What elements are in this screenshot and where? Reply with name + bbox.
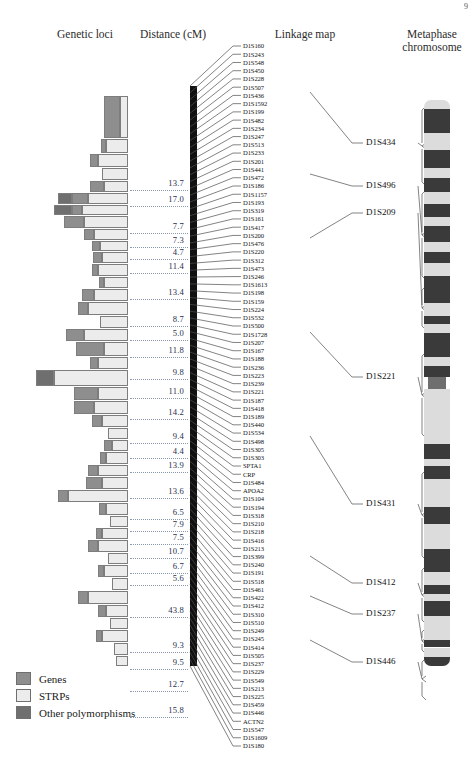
- locus-bar: [16, 643, 128, 655]
- locus-bar-segment-strp: [94, 401, 128, 414]
- distance-value: 8.7: [173, 314, 184, 324]
- header-distance: Distance (cM): [128, 28, 218, 41]
- chromosome-band: [424, 192, 450, 203]
- chromosome-band: [424, 657, 450, 666]
- locus-bar: [16, 528, 128, 539]
- locus-bar-segment-strp: [106, 139, 128, 153]
- linkage-marker: D1S482: [243, 117, 264, 124]
- locus-bar: [16, 465, 128, 476]
- header-linkage-map: Linkage map: [250, 28, 360, 41]
- linkage-marker: D1S236: [243, 364, 264, 371]
- distance-value: 5.6: [173, 573, 184, 583]
- linkage-marker: D1S193: [243, 199, 264, 206]
- locus-bar-segment-gene: [90, 357, 98, 369]
- chromosome-band: [424, 616, 450, 640]
- chromosome-band: [424, 324, 450, 333]
- distance-value: 7.3: [173, 235, 184, 245]
- distance-value: 11.0: [168, 386, 184, 396]
- chromosome-band: [424, 303, 450, 316]
- locus-bar-segment-strp: [94, 229, 128, 240]
- linkage-marker: D1S245: [243, 635, 264, 642]
- linkage-marker: D1S472: [243, 174, 264, 181]
- locus-bar: [16, 440, 128, 451]
- linkage-marker: D1S198: [243, 289, 264, 296]
- linkage-marker: D1S159: [243, 298, 264, 305]
- chromosome-band: [424, 648, 450, 657]
- locus-bar-segment-strp: [104, 181, 128, 192]
- locus-bar-segment-strp: [102, 630, 128, 642]
- linkage-marker: D1S505: [243, 652, 264, 659]
- distance-tick-line: [130, 544, 188, 545]
- locus-bar: [16, 154, 128, 167]
- linkage-marker: D1S180: [243, 742, 264, 749]
- linkage-marker: D1S473: [243, 265, 264, 272]
- locus-bar-segment-gene: [93, 252, 102, 263]
- linkage-marker: D1S319: [243, 207, 264, 214]
- linkage-marker: APOA2: [243, 487, 264, 494]
- linkage-marker: D1S191: [243, 569, 264, 576]
- distance-tick-line: [130, 558, 188, 559]
- locus-bar-segment-strp: [84, 329, 128, 341]
- locus-bar-segment-gene: [76, 342, 104, 356]
- linkage-marker: D1S233: [243, 149, 264, 156]
- linkage-marker: D1S547: [243, 726, 264, 733]
- locus-bar-segment-gene: [99, 277, 104, 288]
- chromosome-band: [424, 459, 450, 466]
- linkage-marker: D1S513: [243, 141, 264, 148]
- locus-bar: [16, 277, 128, 288]
- linkage-marker: D1S220: [243, 248, 264, 255]
- chromosome-band: [424, 178, 450, 193]
- locus-bar-segment-strp: [116, 656, 128, 666]
- distance-value: 14.2: [168, 407, 184, 417]
- locus-bar: [16, 605, 128, 617]
- bracket-label: D1S446: [366, 656, 396, 666]
- distance-tick-line: [130, 326, 188, 327]
- genetic-loci-bar-chart: [16, 86, 128, 666]
- distance-tick-line: [130, 585, 188, 586]
- locus-bar: [16, 540, 128, 552]
- linkage-marker: D1S310: [243, 611, 264, 618]
- chromosome-band: [424, 242, 450, 251]
- locus-bar-segment-gene: [100, 452, 106, 464]
- legend-item-other: Other polymorphisms: [16, 706, 216, 719]
- distance-value: 6.5: [173, 507, 184, 517]
- legend-swatch-gene: [16, 672, 31, 685]
- linkage-marker: D1S210: [243, 520, 264, 527]
- distance-value: 6.7: [173, 561, 184, 571]
- locus-bar: [16, 193, 128, 204]
- distance-tick-line: [130, 458, 188, 459]
- locus-bar-segment-strp: [98, 540, 128, 552]
- linkage-marker: D1S518: [243, 578, 264, 585]
- distance-value: 4.4: [173, 446, 184, 456]
- linkage-marker: D1S246: [243, 273, 264, 280]
- linkage-marker: D1S510: [243, 619, 264, 626]
- distance-value: 5.0: [173, 328, 184, 338]
- bracket-label: D1S221: [366, 371, 396, 381]
- linkage-marker: D1S213: [243, 685, 264, 692]
- locus-bar: [16, 452, 128, 464]
- chromosome-band: [428, 377, 446, 388]
- locus-bar: [16, 342, 128, 356]
- locus-bar-segment-strp: [110, 516, 128, 527]
- locus-bar: [16, 229, 128, 240]
- linkage-marker: D1S221: [243, 388, 264, 395]
- locus-bar: [16, 428, 128, 439]
- linkage-marker: D1S450: [243, 67, 264, 74]
- locus-bar: [16, 357, 128, 369]
- linkage-marker: D1S234: [243, 125, 264, 132]
- linkage-marker: D1S188: [243, 355, 264, 362]
- locus-bar: [16, 401, 128, 414]
- chromosome-band: [424, 276, 450, 304]
- legend-item-gene: Genes: [16, 672, 216, 685]
- distance-tick-line: [130, 357, 188, 358]
- metaphase-chromosome-ideogram: [414, 100, 464, 666]
- distance-value: 7.9: [173, 519, 184, 529]
- chromosome-band: [424, 316, 450, 323]
- locus-bar-segment-gene: [72, 205, 82, 215]
- locus-bar-segment-strp: [102, 252, 128, 263]
- linkage-marker: D1S189: [243, 413, 264, 420]
- locus-bar: [16, 656, 128, 666]
- figure-root: 9 Genetic loci Distance (cM) Linkage map…: [0, 0, 474, 784]
- locus-bar-segment-strp: [108, 553, 128, 564]
- locus-bar-segment-strp: [102, 415, 128, 427]
